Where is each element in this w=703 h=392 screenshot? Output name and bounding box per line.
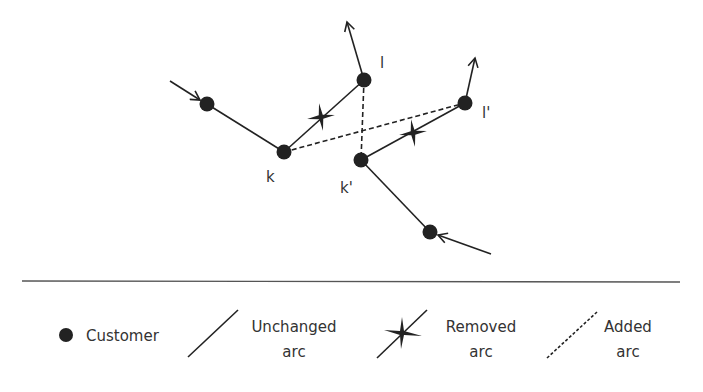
- solid-line-icon: [188, 310, 238, 357]
- legend-removed: Removed arc: [377, 310, 516, 361]
- legend-removed-line2: arc: [469, 343, 492, 361]
- label-kprime: k': [340, 179, 353, 197]
- added-arc-l-kprime: [361, 80, 364, 160]
- removed-star-icon: [384, 317, 422, 349]
- removed-arc-kprime-lprime: [361, 103, 465, 160]
- dashed-line-icon: [547, 312, 597, 358]
- label-k: k: [266, 168, 275, 186]
- customer-node-lprime: [458, 96, 473, 111]
- removed-star-icon: [397, 117, 429, 149]
- customer-node-l: [357, 73, 372, 88]
- legend-unchanged-line1: Unchanged: [251, 318, 336, 336]
- legend-added-line2: arc: [616, 343, 639, 361]
- unchanged-arc-1: [207, 104, 284, 152]
- legend: Customer Unchanged arc Removed arc Added…: [59, 310, 652, 361]
- legend-removed-line1: Removed: [446, 318, 516, 336]
- legend-customer-label: Customer: [86, 327, 160, 345]
- legend-unchanged-line2: arc: [282, 343, 305, 361]
- legend-divider: [22, 281, 680, 282]
- incoming-arc-route1: [170, 81, 200, 100]
- customer-node-k: [277, 145, 292, 160]
- customer-node: [423, 225, 438, 240]
- label-l: l: [380, 54, 384, 72]
- label-lprime: l': [482, 104, 490, 122]
- legend-added-line1: Added: [604, 318, 652, 336]
- customer-dot-icon: [59, 328, 73, 342]
- unchanged-arc-2: [361, 160, 430, 232]
- outgoing-arc-l: [347, 22, 364, 80]
- legend-customer: Customer: [59, 327, 160, 345]
- legend-unchanged: Unchanged arc: [188, 310, 337, 361]
- route-diagram: k l k' l' Customer Unchanged arc Removed…: [0, 0, 703, 392]
- legend-added: Added arc: [547, 312, 652, 361]
- incoming-arc-route2: [438, 235, 491, 254]
- customer-node-kprime: [354, 153, 369, 168]
- customer-node: [200, 97, 215, 112]
